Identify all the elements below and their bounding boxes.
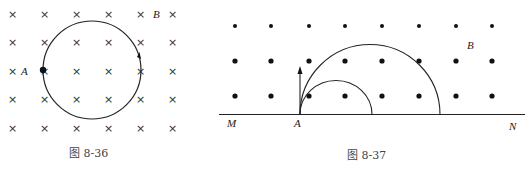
magnetic-field-out-of-page-grid	[232, 24, 494, 99]
field-dot-icon	[268, 93, 273, 98]
figure-8-36: ×××××××××××××××××××××××××××××× A B 图 8-3…	[8, 8, 177, 160]
field-dot-icon	[489, 93, 494, 98]
label-b: B	[153, 8, 160, 20]
field-dot-icon	[307, 24, 311, 28]
field-cross-icon: ×	[40, 8, 49, 21]
field-cross-icon: ×	[168, 36, 177, 49]
field-cross-icon: ×	[72, 36, 81, 49]
caption-left: 图 8-36	[69, 147, 108, 160]
field-dot-icon	[417, 24, 421, 28]
label-n: N	[508, 120, 517, 132]
field-dot-icon	[343, 24, 347, 28]
field-cross-icon: ×	[8, 65, 17, 78]
field-dot-icon	[232, 93, 237, 98]
particle-dot	[40, 67, 46, 73]
field-cross-icon: ×	[168, 8, 177, 21]
label-b-right: B	[467, 39, 474, 51]
figures-canvas: ×××××××××××××××××××××××××××××× A B 图 8-3…	[0, 0, 531, 172]
field-cross-icon: ×	[104, 8, 113, 21]
field-dot-icon	[454, 24, 458, 28]
label-a-right: A	[293, 117, 301, 129]
field-cross-icon: ×	[136, 8, 145, 21]
field-cross-icon: ×	[72, 8, 81, 21]
field-dot-icon	[342, 93, 347, 98]
field-dot-icon	[379, 93, 384, 98]
field-cross-icon: ×	[104, 65, 113, 78]
figure-8-37: M A N B 图 8-37	[219, 24, 525, 162]
field-cross-icon: ×	[136, 122, 145, 135]
field-dot-icon	[490, 24, 494, 28]
magnetic-field-into-page-grid: ××××××××××××××××××××××××××××××	[8, 8, 177, 135]
field-dot-icon	[342, 58, 347, 63]
field-dot-icon	[453, 93, 458, 98]
field-cross-icon: ×	[8, 93, 17, 106]
field-cross-icon: ×	[72, 93, 81, 106]
label-m: M	[226, 117, 237, 129]
field-cross-icon: ×	[136, 93, 145, 106]
field-dot-icon	[380, 24, 384, 28]
field-cross-icon: ×	[40, 93, 49, 106]
field-cross-icon: ×	[168, 93, 177, 106]
field-dot-icon	[268, 58, 273, 63]
field-cross-icon: ×	[104, 36, 113, 49]
field-cross-icon: ×	[8, 36, 17, 49]
label-a: A	[20, 65, 28, 77]
field-dot-icon	[489, 58, 494, 63]
field-cross-icon: ×	[104, 93, 113, 106]
velocity-arrow-icon	[298, 66, 303, 74]
field-cross-icon: ×	[72, 122, 81, 135]
field-dot-icon	[306, 58, 311, 63]
field-cross-icon: ×	[168, 122, 177, 135]
field-cross-icon: ×	[72, 65, 81, 78]
field-dot-icon	[233, 24, 237, 28]
field-cross-icon: ×	[8, 8, 17, 21]
field-dot-icon	[269, 24, 273, 28]
field-dot-icon	[416, 93, 421, 98]
field-dot-icon	[379, 58, 384, 63]
field-cross-icon: ×	[136, 36, 145, 49]
field-cross-icon: ×	[40, 36, 49, 49]
field-dot-icon	[232, 58, 237, 63]
field-cross-icon: ×	[40, 122, 49, 135]
field-dot-icon	[453, 58, 458, 63]
field-cross-icon: ×	[168, 65, 177, 78]
circular-orbit	[43, 21, 141, 119]
field-cross-icon: ×	[8, 122, 17, 135]
field-cross-icon: ×	[104, 122, 113, 135]
caption-right: 图 8-37	[347, 149, 386, 162]
